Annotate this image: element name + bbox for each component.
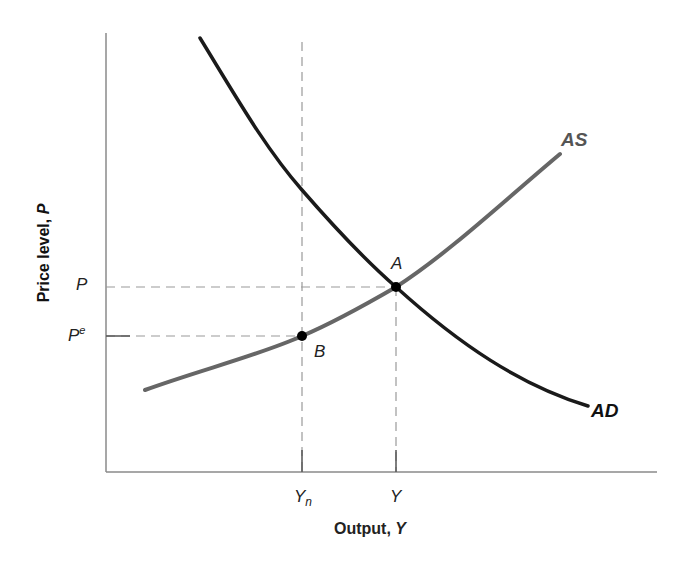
x-axis-title-var: Y	[395, 520, 406, 537]
tick-label-yn: Yn	[294, 487, 312, 509]
as-curve	[145, 154, 560, 390]
x-axis-title-text: Output,	[334, 520, 395, 537]
ad-as-chart	[0, 0, 689, 571]
ad-curve-label: AD	[591, 400, 618, 422]
x-axis-title: Output, Y	[334, 520, 406, 538]
y-axis-title-var: P	[35, 204, 52, 215]
point-a-label: A	[391, 254, 402, 274]
tick-label-y: Y	[390, 487, 401, 507]
tick-label-p: P	[76, 275, 87, 295]
point-a-marker	[391, 282, 401, 292]
tick-label-yn-sub: n	[305, 495, 312, 509]
tick-label-pe-sup: e	[79, 324, 85, 336]
y-axis-title-text: Price level,	[35, 214, 52, 302]
point-b-marker	[297, 331, 307, 341]
as-curve-label: AS	[561, 129, 587, 151]
point-b-label: B	[314, 342, 325, 362]
tick-label-pe: Pe	[68, 324, 85, 346]
tick-label-yn-base: Y	[294, 487, 305, 506]
tick-label-pe-base: P	[68, 326, 79, 345]
y-axis-title: Price level, P	[35, 204, 53, 303]
